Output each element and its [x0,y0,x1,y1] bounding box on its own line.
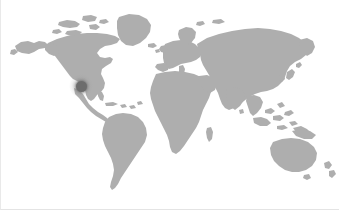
location-marker[interactable] [76,81,87,92]
world-map-location-widget: World Map [0,0,339,210]
world-map-graphic [1,0,339,210]
